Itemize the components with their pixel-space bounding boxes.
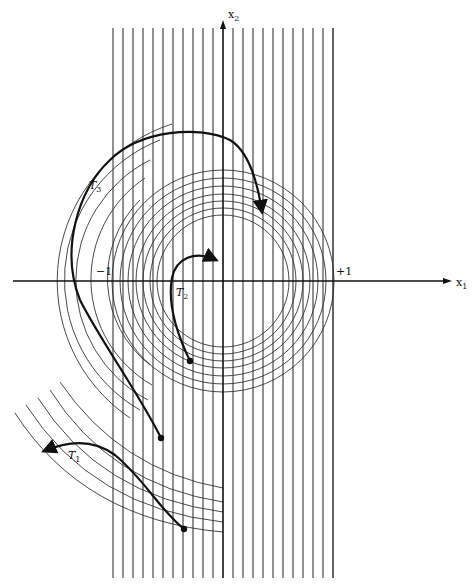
x2-axis-arrow-icon <box>220 20 226 29</box>
outer-arcs <box>57 124 172 418</box>
t1-start-dot <box>181 526 187 532</box>
tick-label-neg-one: −1 <box>96 265 112 278</box>
phase-diagram: x2 x1 −1 +1 T1 T2 T3 <box>0 0 474 586</box>
tick-label-pos-one: +1 <box>336 265 352 278</box>
x1-axis-arrow-icon <box>443 278 452 284</box>
t3-start-dot <box>158 435 164 441</box>
x2-axis-label: x2 <box>228 8 239 23</box>
t3-label: T3 <box>89 179 101 194</box>
t2-label: T2 <box>176 286 188 301</box>
t1-label: T1 <box>68 449 80 464</box>
t2-start-dot <box>187 358 193 364</box>
x1-axis-label: x1 <box>456 276 467 291</box>
